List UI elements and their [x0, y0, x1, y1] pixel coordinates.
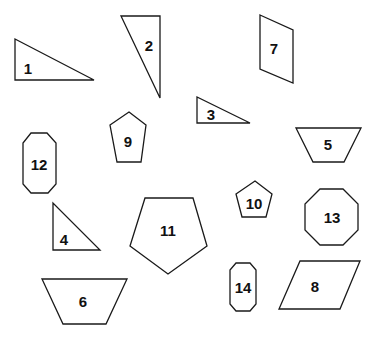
shape-14-octagon: 14 [230, 263, 256, 311]
shape-label: 3 [207, 106, 215, 123]
shape-5-trapezoid: 5 [296, 128, 361, 162]
shapes-canvas: 1234567891011121314 [0, 0, 375, 340]
shape-7-parallelogram: 7 [260, 15, 293, 83]
right-triangle-outline [121, 16, 160, 98]
shape-10-pentagon: 10 [236, 181, 272, 217]
shape-label: 11 [160, 222, 176, 239]
shape-label: 12 [31, 156, 48, 173]
shape-label: 10 [246, 195, 263, 212]
shape-label: 2 [145, 37, 153, 54]
shape-11-pentagon: 11 [130, 198, 207, 274]
shape-label: 7 [270, 40, 278, 57]
right-triangle-outline [197, 97, 250, 123]
shape-13-octagon: 13 [305, 189, 358, 245]
shape-label: 9 [124, 133, 132, 150]
parallelogram-outline [279, 261, 360, 309]
shape-6-trapezoid: 6 [42, 279, 127, 324]
shape-9-pentagon: 9 [110, 112, 146, 162]
shape-label: 5 [324, 136, 332, 153]
shape-label: 14 [235, 279, 252, 296]
shape-1-right-triangle: 1 [15, 39, 94, 80]
shape-label: 6 [79, 293, 87, 310]
shape-label: 8 [311, 278, 319, 295]
shape-label: 13 [324, 209, 341, 226]
shape-8-parallelogram: 8 [279, 261, 360, 309]
shape-4-right-triangle: 4 [53, 203, 100, 250]
shape-label: 1 [24, 60, 32, 77]
shape-12-octagon: 12 [23, 133, 56, 193]
shape-2-right-triangle: 2 [121, 16, 160, 98]
shape-label: 4 [60, 231, 69, 248]
shape-3-right-triangle: 3 [197, 97, 250, 123]
